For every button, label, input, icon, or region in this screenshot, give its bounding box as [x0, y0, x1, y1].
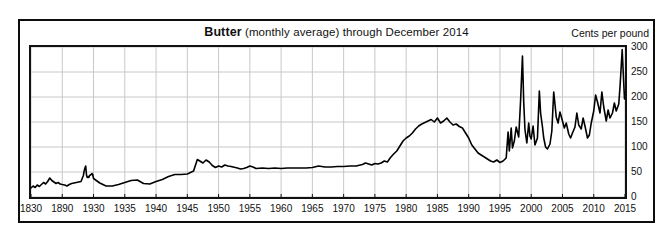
- x-tick-label: 1955: [239, 204, 261, 214]
- chart-title-series: Butter: [204, 25, 241, 39]
- x-tick-label: 2010: [583, 204, 605, 214]
- x-tick-label: 1995: [489, 204, 511, 214]
- data-series-butter: [31, 50, 625, 189]
- y-tick-label: 100: [631, 142, 648, 152]
- chart-header: Butter (monthly average) through Decembe…: [20, 23, 653, 43]
- chart-canvas: [29, 45, 627, 199]
- x-tick-label: 2015: [614, 204, 636, 214]
- chart-title: Butter (monthly average) through Decembe…: [20, 25, 653, 39]
- y-tick-label: 250: [631, 67, 648, 77]
- y-tick-label: 150: [631, 117, 648, 127]
- y-tick-label: 300: [631, 42, 648, 52]
- x-tick-label: 1980: [395, 204, 417, 214]
- x-tick-label: 2000: [520, 204, 542, 214]
- x-tick-label: 1940: [145, 204, 167, 214]
- x-tick-label: 1935: [114, 204, 136, 214]
- x-tick-label: 1970: [333, 204, 355, 214]
- x-tick-label: 2005: [551, 204, 573, 214]
- x-tick-label: 1890: [51, 204, 73, 214]
- plot-area: [29, 45, 627, 199]
- gridlines: [31, 47, 625, 197]
- x-tick-label: 1960: [270, 204, 292, 214]
- x-tick-label: 1985: [426, 204, 448, 214]
- x-tick-label: 1950: [207, 204, 229, 214]
- x-tick-label: 1965: [301, 204, 323, 214]
- chart-figure: Butter (monthly average) through Decembe…: [18, 19, 655, 223]
- x-tick-label: 1990: [458, 204, 480, 214]
- x-tick-label: 1945: [176, 204, 198, 214]
- y-axis-unit-label: Cents per pound: [571, 27, 649, 39]
- series-line-butter: [31, 50, 625, 189]
- x-tick-label: 1830: [20, 204, 42, 214]
- x-tick-label: 1975: [364, 204, 386, 214]
- y-tick-label: 0: [631, 192, 637, 202]
- y-tick-label: 200: [631, 92, 648, 102]
- x-tick-label: 1930: [82, 204, 104, 214]
- chart-title-rest: (monthly average) through December 2014: [242, 26, 469, 38]
- y-tick-label: 50: [631, 167, 642, 177]
